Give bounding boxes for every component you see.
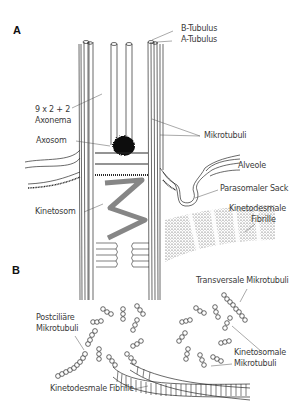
right-doublet bbox=[148, 41, 163, 301]
label-axonema-line1: 9 x 2 + 2 bbox=[35, 105, 70, 115]
label-parasomaler-sack: Parasomaler Sack bbox=[220, 184, 288, 194]
transversale-mikrotubuli bbox=[222, 293, 248, 323]
left-doublet bbox=[79, 41, 93, 301]
panel-label-a: A bbox=[13, 24, 21, 36]
kinetosome-triplets-right bbox=[177, 305, 233, 368]
central-pair bbox=[111, 43, 132, 146]
kinetosome-triplets-left bbox=[91, 304, 146, 368]
label-kinetosomale-line1: Kinetosomale bbox=[234, 348, 286, 358]
axosom-blob bbox=[112, 135, 134, 155]
label-b-tubulus: B-Tubulus bbox=[181, 24, 217, 34]
label-axonema-line2: Axonema bbox=[35, 116, 71, 126]
label-alveole: Alveole bbox=[238, 161, 266, 171]
label-kinetosom: Kinetosom bbox=[35, 207, 76, 217]
kinetosom-zigzag bbox=[105, 180, 145, 238]
label-kinetodesmale-line2: Fibrille bbox=[251, 215, 276, 225]
label-kinetosomale-line2: Mikrotubuli bbox=[234, 359, 276, 369]
label-a-tubulus: A-Tubulus bbox=[181, 35, 217, 45]
basal-stubs bbox=[96, 243, 149, 267]
panel-b-drawing bbox=[56, 293, 248, 379]
label-postciliaere-line2: Mikrotubuli bbox=[36, 324, 78, 334]
label-transversale: Transversale Mikrotubuli bbox=[196, 276, 289, 286]
label-kinetodesmale-fibrille: Kinetodesmale Fibrille bbox=[50, 384, 134, 394]
panel-label-b: B bbox=[12, 264, 20, 276]
kinetodesmal-fibril-b bbox=[113, 363, 250, 400]
postciliary-mikrotubuli bbox=[56, 329, 98, 379]
label-axosom: Axosom bbox=[36, 136, 67, 146]
label-kinetodesmale-line1: Kinetodesmale bbox=[229, 204, 286, 214]
label-mikrotubuli: Mikrotubuli bbox=[204, 131, 246, 141]
label-postciliaere-line1: Postciliäre bbox=[36, 313, 75, 323]
